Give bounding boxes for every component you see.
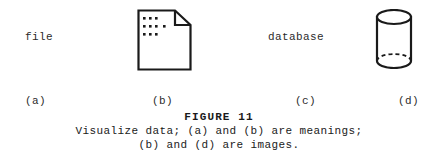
figure-caption: FIGURE 11 Visualize data; (a) and (b) ar… (0, 111, 438, 152)
item-label-database: database (268, 31, 324, 43)
sub-label-a: (a) (25, 95, 46, 107)
item-label-file: file (25, 31, 53, 43)
sub-label-c: (c) (295, 95, 316, 107)
caption-line-1: Visualize data; (a) and (b) are meanings… (0, 124, 438, 138)
sub-label-d: (d) (398, 95, 419, 107)
figure-container: file database (0, 0, 438, 160)
database-cylinder-icon (374, 9, 414, 69)
caption-line-2: (b) and (d) are images. (0, 138, 438, 152)
sub-label-b: (b) (152, 95, 173, 107)
figure-number: FIGURE 11 (0, 111, 438, 124)
document-page-icon (137, 9, 192, 71)
